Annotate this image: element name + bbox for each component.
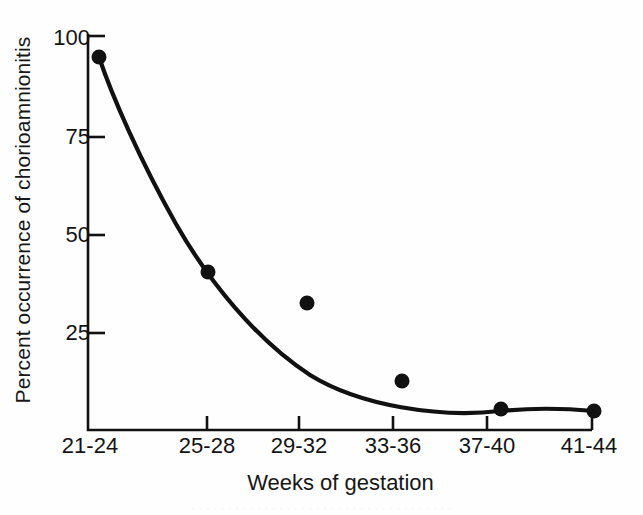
x-tick-label-29-32: 29-32 bbox=[253, 434, 345, 458]
data-point-6 bbox=[587, 404, 602, 419]
data-point-4 bbox=[395, 374, 410, 389]
x-tick-label-41-44: 41-44 bbox=[543, 434, 635, 458]
figure-canvas: Percent occurrence of chorioamnionitis 1… bbox=[0, 0, 643, 515]
fitted-curve bbox=[99, 57, 594, 413]
data-point-5 bbox=[494, 402, 509, 417]
x-tick-label-37-40: 37-40 bbox=[441, 434, 533, 458]
x-tick-label-21-24: 21-24 bbox=[44, 434, 136, 458]
x-tick-label-25-28: 25-28 bbox=[161, 434, 253, 458]
data-point-markers bbox=[92, 50, 602, 419]
data-point-3 bbox=[300, 296, 315, 311]
data-point-1 bbox=[92, 50, 107, 65]
scanned-caption-fragment: · · · · · · · · · · · · · · · · · · · · … bbox=[0, 501, 643, 515]
axis-spine bbox=[88, 34, 592, 430]
data-point-2 bbox=[201, 265, 216, 280]
y-axis-ticks bbox=[88, 36, 105, 333]
x-axis-title: Weeks of gestation bbox=[88, 470, 593, 496]
x-axis-ticks bbox=[207, 412, 592, 430]
x-tick-label-33-36: 33-36 bbox=[347, 434, 439, 458]
